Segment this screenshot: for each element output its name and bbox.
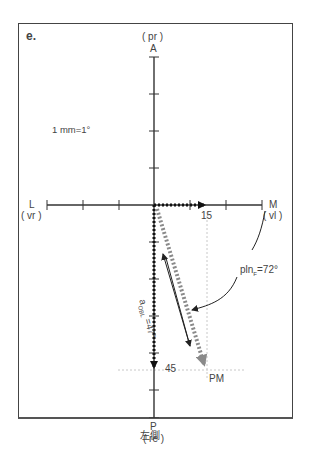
bottom-rule bbox=[18, 418, 293, 419]
y-component-value: 45 bbox=[165, 363, 176, 374]
x-component-value: 15 bbox=[201, 210, 212, 221]
endpoint-label: PM bbox=[209, 373, 224, 384]
top-axis-letter: A bbox=[150, 43, 157, 54]
top-axis-sub: ( pr ) bbox=[142, 31, 163, 42]
right-axis-letter: M bbox=[269, 199, 277, 210]
pln-arrow bbox=[192, 277, 237, 310]
pln-label: plnF=72° bbox=[240, 264, 278, 277]
left-axis-letter: L bbox=[29, 199, 35, 210]
left-axis-sub: ( vr ) bbox=[21, 210, 42, 221]
right-axis-sub: ( vl ) bbox=[263, 210, 282, 221]
caption: 左側 bbox=[140, 427, 160, 442]
resultant-arrow bbox=[157, 209, 204, 364]
vector-diagram bbox=[0, 0, 310, 454]
